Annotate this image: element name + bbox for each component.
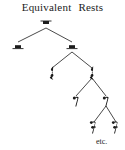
tree-edge bbox=[94, 106, 106, 122]
etc-label: etc. bbox=[96, 137, 107, 146]
rest-tree-diagram: EquivalentRests etc. bbox=[0, 0, 125, 150]
tree-edge bbox=[18, 28, 46, 42]
tree-edge bbox=[92, 78, 106, 96]
tree-edge bbox=[76, 78, 92, 96]
tree-edge bbox=[106, 106, 116, 122]
tree-edges bbox=[0, 0, 125, 150]
tree-edge bbox=[46, 28, 72, 42]
tree-edge bbox=[52, 52, 72, 68]
tree-edge bbox=[72, 52, 92, 68]
